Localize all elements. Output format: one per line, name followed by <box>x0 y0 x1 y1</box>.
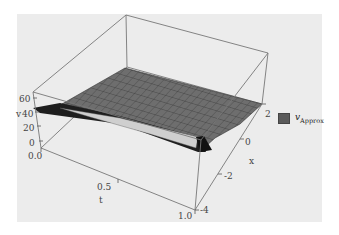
v-tick-0: 0 <box>29 139 35 148</box>
t-axis-ticks <box>41 148 195 214</box>
t-tick-0: 0.0 <box>28 152 42 161</box>
x-tick-0: 0 <box>245 138 251 147</box>
v-tick-60: 60 <box>19 95 30 104</box>
t-tick-1: 1.0 <box>178 212 192 221</box>
legend-label: vApprox <box>295 112 324 125</box>
x-tick-minus-2: -2 <box>224 172 233 181</box>
x-axis-label: x <box>249 157 254 166</box>
x-tick-2: 2 <box>265 110 271 119</box>
t-axis-label: t <box>99 196 103 205</box>
t-tick-0-5: 0.5 <box>97 183 111 192</box>
v-tick-40: 40 <box>22 110 33 119</box>
legend: vApprox <box>278 112 324 125</box>
legend-swatch <box>278 113 290 124</box>
v-axis-label: v <box>16 110 21 119</box>
x-tick-minus-4: -4 <box>200 206 209 215</box>
v-tick-20: 20 <box>23 124 34 133</box>
